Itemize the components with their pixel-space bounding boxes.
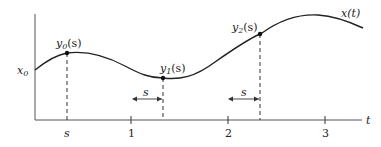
point-y1 [161,76,165,80]
arrowhead-left-icon [228,97,233,102]
tick-label-2: 2 [225,127,232,140]
shift-label-2: s [241,86,247,99]
tick-label-1: 1 [128,127,135,140]
curve-x-of-t [35,15,363,79]
y0-label: y0(s) [55,37,82,51]
point-y0 [65,51,69,55]
arrowhead-left-icon [132,97,137,102]
x0-label: x0 [17,64,28,78]
tick-label-3: 3 [322,127,329,140]
arrowhead-right-icon [157,97,162,102]
tick-label-s: s [64,127,70,140]
shift-label-1: s [143,86,149,99]
diagram-canvas: x0 y0(s) y1(s) y2(s) x(t) s s s 1 2 3 t [0,0,381,147]
point-y2 [258,32,262,36]
t-axis-label: t [366,114,371,127]
curve-label: x(t) [341,7,360,20]
diagram-svg: x0 y0(s) y1(s) y2(s) x(t) s s s 1 2 3 t [0,0,381,147]
y1-label: y1(s) [159,62,186,76]
arrowhead-right-icon [254,97,259,102]
y2-label: y2(s) [231,21,258,35]
